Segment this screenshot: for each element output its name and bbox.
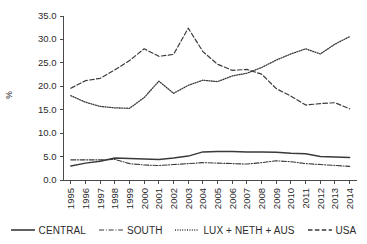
legend-item-lux-neth-aus: LUX + NETH + AUS — [175, 225, 294, 236]
series-line-usa — [71, 28, 350, 109]
line-chart: 0.05.010.015.020.025.030.035.0 % 1995199… — [0, 0, 367, 244]
legend-swatch-central — [11, 226, 35, 234]
x-tick-label: 1999 — [124, 188, 135, 209]
legend-item-south: SOUTH — [99, 225, 163, 236]
x-tick-label: 2013 — [329, 188, 340, 209]
x-tick-label: 1995 — [65, 188, 76, 209]
legend-swatch-south — [99, 226, 123, 234]
y-tick-label: 30.0 — [38, 33, 57, 44]
x-tick-label: 2011 — [300, 188, 311, 208]
y-tick-label: 10.0 — [38, 127, 57, 138]
y-axis-title: % — [4, 91, 14, 99]
y-axis-group: 0.05.010.015.020.025.030.035.0 % — [4, 10, 64, 185]
x-tick-label: 2000 — [139, 188, 150, 209]
series-line-south — [71, 159, 350, 166]
x-tick-label: 2006 — [227, 188, 238, 209]
x-tick-label: 2003 — [183, 188, 194, 209]
x-tick-label: 1996 — [80, 188, 91, 209]
y-tick-label: 0.0 — [43, 174, 56, 185]
x-axis-group: 1995199619971998199920002001200220032004… — [64, 180, 358, 209]
legend-item-usa: USA — [308, 225, 357, 236]
y-tick-label: 15.0 — [38, 104, 57, 115]
y-tick-label: 20.0 — [38, 80, 57, 91]
legend-label-central: CENTRAL — [39, 225, 86, 236]
legend-label-lux-neth-aus: LUX + NETH + AUS — [203, 225, 294, 236]
legend-label-south: SOUTH — [127, 225, 163, 236]
legend-label-usa: USA — [336, 225, 357, 236]
x-tick-label: 2008 — [256, 188, 267, 209]
x-tick-label: 2002 — [168, 188, 179, 209]
series-group — [71, 28, 350, 166]
x-tick-label: 2007 — [241, 188, 252, 209]
series-line-lux-neth-aus — [71, 37, 350, 109]
x-tick-label: 2001 — [153, 188, 164, 209]
x-tick-label: 2014 — [344, 188, 355, 209]
x-tick-label: 1998 — [109, 188, 120, 209]
y-tick-label: 5.0 — [43, 151, 56, 162]
x-tick-labels: 1995199619971998199920002001200220032004… — [65, 188, 355, 209]
legend-swatch-usa — [308, 226, 332, 234]
x-tick-label: 2009 — [271, 188, 282, 209]
x-tick-label: 2012 — [315, 188, 326, 209]
chart-legend: CENTRAL SOUTH LUX + NETH + AUS USA — [0, 219, 367, 241]
x-tick-label: 2010 — [285, 188, 296, 209]
legend-swatch-lux-neth-aus — [175, 226, 199, 234]
x-tick-label: 1997 — [95, 188, 106, 209]
y-tick-label: 35.0 — [38, 10, 57, 21]
x-tick-label: 2005 — [212, 188, 223, 209]
y-tick-labels: 0.05.010.015.020.025.030.035.0 — [38, 10, 57, 185]
x-tick-label: 2004 — [197, 188, 208, 209]
chart-plot-area: 0.05.010.015.020.025.030.035.0 % 1995199… — [0, 0, 367, 244]
y-tick-marks — [60, 16, 64, 180]
y-tick-label: 25.0 — [38, 57, 57, 68]
legend-item-central: CENTRAL — [11, 225, 86, 236]
